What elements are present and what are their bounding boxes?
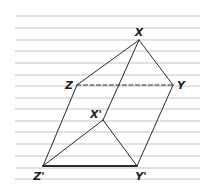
vertex-label-z: Z xyxy=(65,80,73,91)
edge-y-yp xyxy=(137,85,173,166)
edge-xp-zp xyxy=(43,120,103,166)
edge-z-zp xyxy=(43,85,77,166)
vertex-label-z-prime: Z' xyxy=(33,171,44,182)
vertex-label-x-prime: X' xyxy=(90,109,102,120)
edge-x-xp xyxy=(103,40,139,120)
ruled-lines xyxy=(15,16,200,179)
vertex-label-x: X xyxy=(135,27,143,38)
edge-xp-yp xyxy=(103,120,137,166)
prism-edges xyxy=(43,40,173,166)
vertex-label-y: Y xyxy=(177,80,185,91)
prism-figure xyxy=(0,0,208,196)
diagram-canvas: XYZX'Y'Z' xyxy=(0,0,208,196)
vertex-label-y-prime: Y' xyxy=(135,171,146,182)
